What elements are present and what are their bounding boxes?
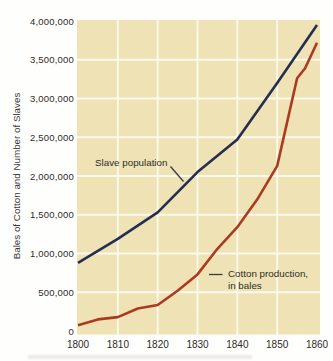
y-tick-label: 2,000,000: [0, 171, 74, 182]
y-tick-label: 2,500,000: [0, 132, 74, 143]
y-tick-label: 3,000,000: [0, 93, 74, 104]
y-tick-label: 3,500,000: [0, 54, 74, 65]
x-tick-label: 1830: [182, 339, 214, 350]
x-tick-label: 1820: [142, 339, 174, 350]
cotton-production-label-line1: Cotton production,: [228, 268, 308, 280]
y-tick-label: 0: [0, 326, 74, 337]
y-tick-label: 1,000,000: [0, 248, 74, 259]
cotton-production-label-line2: in bales: [228, 280, 308, 292]
x-tick-label: 1860: [301, 339, 333, 350]
slave-population-label: Slave population: [95, 157, 167, 169]
cotton-production-label: Cotton production, in bales: [228, 268, 308, 291]
x-tick-label: 1810: [102, 339, 134, 350]
x-tick-label: 1840: [221, 339, 253, 350]
x-tick-label: 1800: [62, 339, 94, 350]
cropped-page-caption-artifact: [28, 355, 252, 359]
chart-figure: Bales of Cotton and Number of Slaves 050…: [0, 0, 333, 361]
y-tick-label: 1,500,000: [0, 209, 74, 220]
y-tick-label: 4,000,000: [0, 16, 74, 27]
x-tick-label: 1850: [261, 339, 293, 350]
y-tick-label: 500,000: [0, 287, 74, 298]
